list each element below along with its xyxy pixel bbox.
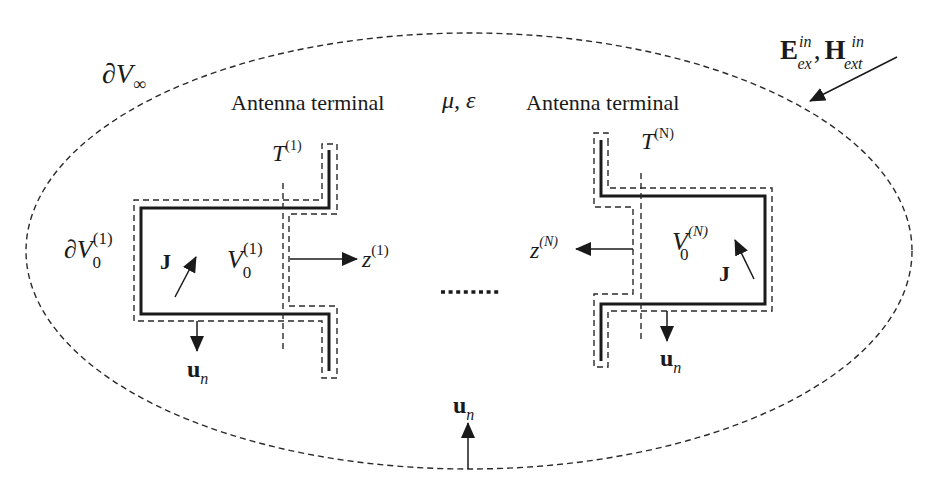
antenna-system-diagram: ∂V∞ μ, ε Einex,Hinext Antenna terminal T… xyxy=(0,0,940,499)
antenna-1-surface-label: ∂V(1)0 xyxy=(64,229,113,272)
outer-normal-label: un xyxy=(453,392,474,423)
antenna-1-terminal-label: Antenna terminal xyxy=(231,90,384,115)
antenna-1-z-axis-label: z(1) xyxy=(361,242,389,272)
antenna-n-normal-label: un xyxy=(660,345,681,376)
antenna-1-current-arrow xyxy=(175,257,196,297)
antenna-n-current-label: J xyxy=(719,261,730,286)
antenna-1: Antenna terminal T(1) ∂V(1)0 J V(1)0 z(1… xyxy=(64,90,389,387)
outer-boundary-label: ∂V∞ xyxy=(102,58,146,94)
antenna-1-normal-label: un xyxy=(187,356,208,387)
antenna-n-volume-label: V(N)0 xyxy=(672,223,708,264)
antenna-n-current-arrow xyxy=(735,240,754,279)
medium-label: μ, ε xyxy=(441,87,476,113)
antenna-n-terminal-plane-label: T(N) xyxy=(641,126,674,154)
antenna-n-terminal-label: Antenna terminal xyxy=(526,90,679,115)
antenna-n: Antenna terminal T(N) V(N)0 J z(N) un xyxy=(526,90,772,376)
antenna-n-z-axis-label: z(N) xyxy=(529,234,558,263)
antenna-1-terminal-plane-label: T(1) xyxy=(272,138,302,166)
incident-field-label: Einex,Hinext xyxy=(780,33,864,72)
antenna-1-current-label: J xyxy=(160,249,171,274)
antenna-1-volume-label: V(1)0 xyxy=(227,239,263,282)
